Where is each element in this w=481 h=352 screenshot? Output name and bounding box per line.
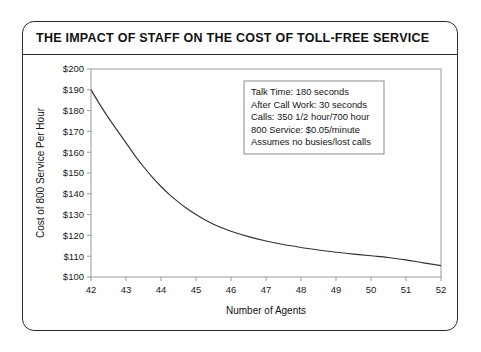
annotation-line: After Call Work: 30 seconds (251, 99, 367, 110)
x-axis-title: Number of Agents (226, 305, 306, 316)
x-axis-tick-label: 50 (366, 284, 377, 295)
y-axis-tick-label: $190 (63, 84, 84, 95)
page-title: THE IMPACT OF STAFF ON THE COST OF TOLL-… (22, 31, 429, 45)
x-axis-tick-label: 52 (436, 284, 447, 295)
figure-container: THE IMPACT OF STAFF ON THE COST OF TOLL-… (0, 0, 481, 352)
y-axis-tick-label: $170 (63, 126, 84, 137)
y-axis-tick-label: $100 (63, 271, 84, 282)
x-axis-tick-label: 43 (121, 284, 132, 295)
y-axis-tick-label: $180 (63, 105, 84, 116)
y-axis-tick-label: $160 (63, 147, 84, 158)
x-axis-tick-label: 45 (191, 284, 202, 295)
x-axis-tick-label: 47 (261, 284, 272, 295)
annotation-line: Talk Time: 180 seconds (251, 86, 349, 97)
y-axis-title: Cost of 800 Service Per Hour (35, 107, 46, 238)
y-axis-tick-label: $120 (63, 230, 84, 241)
x-axis-tick-label: 48 (296, 284, 307, 295)
y-axis-tick-label: $130 (63, 209, 84, 220)
figure-title-band: THE IMPACT OF STAFF ON THE COST OF TOLL-… (22, 21, 458, 55)
chart-area: $100$110$120$130$140$150$160$170$180$190… (22, 55, 458, 331)
y-axis-tick-label: $140 (63, 188, 84, 199)
y-axis-tick-label: $110 (64, 251, 84, 262)
y-axis-tick-label: $150 (63, 167, 84, 178)
x-axis-tick-label: 49 (331, 284, 342, 295)
x-axis-tick-label: 51 (401, 284, 412, 295)
x-axis-tick-label: 44 (156, 284, 167, 295)
annotation-line: Assumes no busies/lost calls (251, 136, 371, 147)
annotation-line: Calls: 350 1/2 hour/700 hour (251, 111, 369, 122)
x-axis-tick-label: 42 (86, 284, 97, 295)
annotation-line: 800 Service: $0.05/minute (251, 124, 360, 135)
line-chart: $100$110$120$130$140$150$160$170$180$190… (22, 55, 458, 331)
x-axis-tick-label: 46 (226, 284, 237, 295)
y-axis-tick-label: $200 (63, 63, 84, 74)
